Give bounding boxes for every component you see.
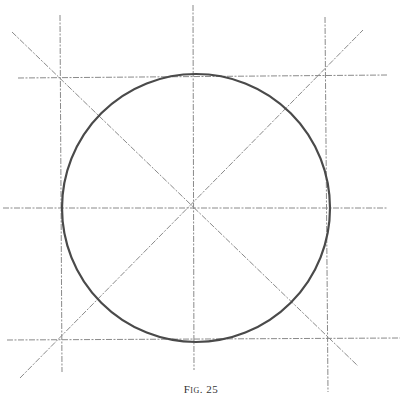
bottom-horizontal-line [7,338,400,340]
top-horizontal-line [18,75,388,78]
pencil-sketch-diagram [0,0,402,405]
diagonal-up-line [20,30,363,378]
diagonal-down-line [12,32,358,366]
center-vertical-line [193,5,194,370]
figure-caption: Fig. 25 [0,383,402,395]
